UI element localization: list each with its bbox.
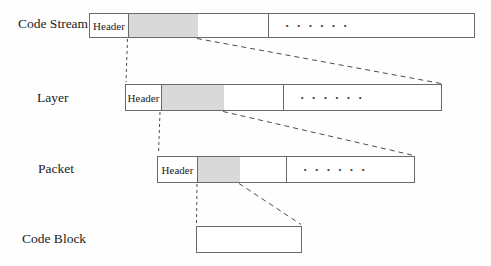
layer-shaded-segment (162, 85, 224, 110)
layer-ellipsis-segment: · · · · · · (284, 85, 441, 110)
label-code-stream: Code Stream (18, 11, 88, 36)
packet-empty-segment (240, 157, 287, 182)
bar-layer: Header · · · · · · (125, 84, 442, 111)
codestream-empty-segment (198, 14, 269, 37)
connector-layer-to-packet-right (223, 112, 414, 156)
connector-packet-to-codeblock-left (197, 184, 198, 224)
codestream-ellipsis-segment: · · · · · · (269, 14, 474, 37)
bar-code-stream: Header · · · · · · (89, 13, 475, 38)
codestream-hierarchy-diagram: Code Stream Header · · · · · · Layer Hea… (0, 0, 491, 266)
layer-empty-segment (224, 85, 284, 110)
codestream-header-segment: Header (90, 14, 129, 37)
packet-ellipsis-segment: · · · · · · (287, 157, 414, 182)
connector-packet-to-codeblock-right (239, 184, 301, 225)
label-code-block: Code Block (22, 225, 86, 252)
packet-header-segment: Header (158, 157, 198, 182)
packet-shaded-segment (198, 157, 240, 182)
label-packet: Packet (38, 155, 74, 182)
codestream-shaded-segment (129, 14, 198, 37)
layer-header-segment: Header (126, 85, 162, 110)
connector-codestream-to-layer-left (126, 39, 128, 82)
bar-packet: Header · · · · · · (157, 156, 415, 183)
connector-layer-to-packet-left (159, 112, 161, 154)
connector-codestream-to-layer-right (197, 39, 441, 84)
bar-code-block (196, 226, 302, 253)
label-layer: Layer (37, 84, 68, 111)
